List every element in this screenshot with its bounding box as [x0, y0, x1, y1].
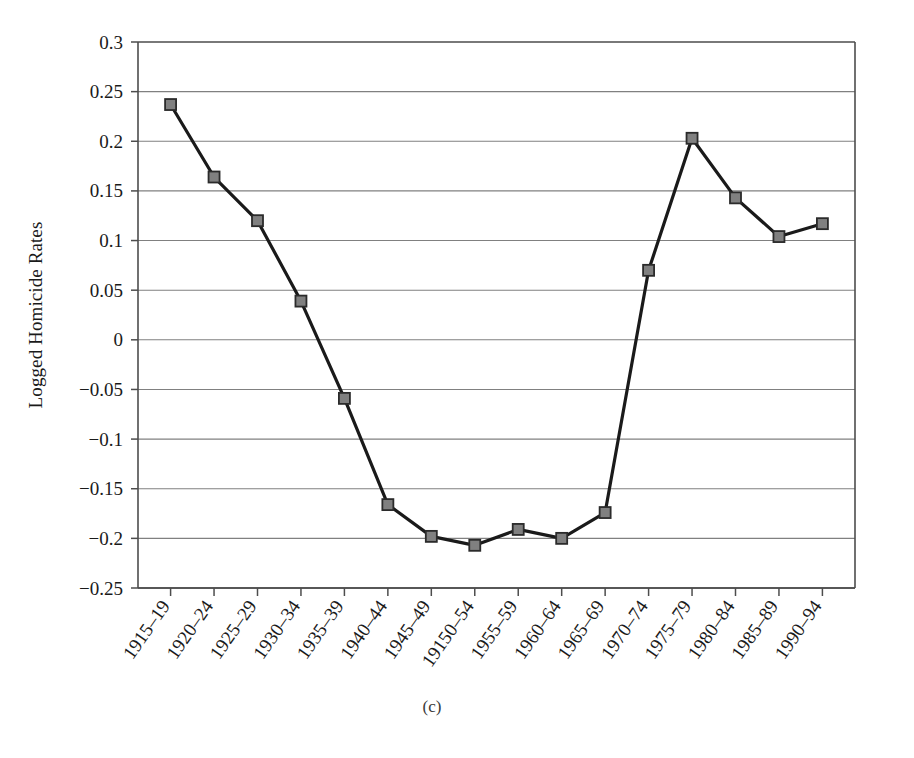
data-point-marker [817, 218, 828, 229]
y-axis-tick-label: −0.1 [89, 429, 123, 450]
y-axis-tick-label: −0.15 [79, 478, 123, 499]
data-point-marker [339, 393, 350, 404]
y-axis-tick-label: 0.3 [99, 32, 123, 53]
data-point-marker [165, 99, 176, 110]
data-point-marker [295, 296, 306, 307]
data-point-marker [643, 265, 654, 276]
y-axis-tick-label: −0.2 [89, 528, 123, 549]
y-axis-tick-label: 0.15 [90, 180, 123, 201]
y-axis-tick-label: −0.05 [79, 379, 123, 400]
data-point-marker [773, 231, 784, 242]
data-point-marker [426, 531, 437, 542]
y-axis-title: Logged Homicide Rates [25, 222, 46, 409]
y-axis-tick-label: 0.2 [99, 131, 123, 152]
data-point-marker [209, 172, 220, 183]
figure-container: 0.30.250.20.150.10.050−0.05−0.1−0.15−0.2… [0, 0, 914, 758]
y-axis-tick-label: −0.25 [79, 578, 123, 599]
data-point-marker [600, 507, 611, 518]
y-axis-tick-label: 0 [114, 329, 124, 350]
data-point-marker [382, 499, 393, 510]
y-axis-tick-label: 0.25 [90, 81, 123, 102]
line-chart: 0.30.250.20.150.10.050−0.05−0.1−0.15−0.2… [0, 0, 914, 758]
data-point-marker [252, 215, 263, 226]
data-point-marker [556, 533, 567, 544]
data-point-marker [469, 540, 480, 551]
figure-caption: (c) [423, 697, 442, 716]
y-axis-tick-label: 0.1 [99, 230, 123, 251]
y-axis-title-text: Logged Homicide Rates [25, 222, 46, 409]
data-point-marker [687, 133, 698, 144]
data-point-marker [513, 524, 524, 535]
y-axis-tick-label: 0.05 [90, 280, 123, 301]
data-point-marker [730, 192, 741, 203]
figure-caption-text: (c) [423, 697, 442, 716]
